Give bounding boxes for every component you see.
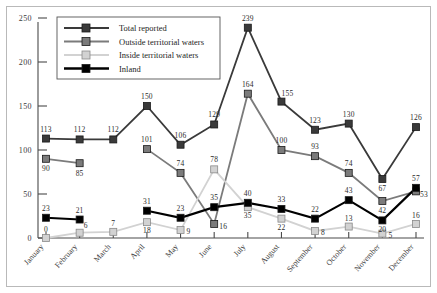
y-tick-label: 200 (19, 58, 32, 67)
data-point-marker (211, 220, 218, 227)
data-point-marker (43, 155, 50, 162)
data-value-label: 35 (244, 211, 252, 220)
data-point-marker (278, 147, 285, 154)
x-tick-label: April (128, 242, 147, 261)
data-point-marker (76, 229, 83, 236)
legend-swatch-marker-1 (82, 38, 90, 46)
series-line-1 (147, 94, 416, 224)
x-tick-label: December (387, 242, 416, 273)
data-value-label: 23 (177, 204, 185, 213)
data-value-label: 130 (343, 110, 355, 119)
data-value-label: 40 (244, 189, 252, 198)
data-value-label: 164 (242, 80, 254, 89)
data-point-marker (312, 215, 319, 222)
data-value-label: 112 (74, 125, 86, 134)
data-value-label: 74 (345, 159, 353, 168)
data-value-label: 9 (187, 227, 191, 236)
data-value-label: 100 (276, 136, 288, 145)
data-value-label: 150 (141, 92, 153, 101)
data-point-marker (413, 124, 420, 131)
data-value-label: 16 (412, 211, 420, 220)
data-value-label: 90 (42, 164, 50, 173)
data-point-marker (345, 120, 352, 127)
data-value-label: 22 (311, 205, 319, 214)
series-line-1 (46, 159, 80, 163)
data-value-label: 7 (111, 219, 115, 228)
data-point-marker (76, 216, 83, 223)
data-value-label: 101 (141, 135, 153, 144)
data-point-marker (76, 136, 83, 143)
y-tick-label: 50 (23, 190, 32, 199)
data-value-label: 57 (412, 174, 420, 183)
data-value-label: 21 (76, 206, 84, 215)
data-value-label: 43 (345, 186, 353, 195)
data-value-label: 13 (345, 214, 353, 223)
data-value-label: 85 (76, 169, 84, 178)
data-point-marker (177, 169, 184, 176)
data-point-marker (76, 160, 83, 167)
data-point-marker (143, 219, 150, 226)
data-point-marker (413, 184, 420, 191)
data-point-marker (43, 135, 50, 142)
data-point-marker (413, 220, 420, 227)
x-tick-label: September (285, 242, 315, 274)
series-line-2 (46, 169, 416, 238)
data-value-label: 23 (42, 204, 50, 213)
data-point-marker (43, 235, 50, 242)
data-point-marker (379, 176, 386, 183)
data-value-label: 239 (242, 14, 254, 23)
legend-label-2: Inside territorial waters (119, 50, 198, 60)
data-point-marker (110, 228, 117, 235)
data-point-marker (143, 146, 150, 153)
y-tick-label: 150 (19, 102, 32, 111)
x-tick-label: October (324, 242, 348, 267)
data-value-label: 113 (40, 125, 52, 134)
data-value-label: 33 (278, 195, 286, 204)
x-tick-label: March (92, 242, 113, 264)
data-point-marker (278, 205, 285, 212)
data-value-label: 53 (420, 190, 428, 199)
y-tick-label: 250 (19, 14, 32, 23)
x-tick-label: January (22, 242, 45, 267)
data-value-label: 67 (378, 184, 386, 193)
data-point-marker (312, 153, 319, 160)
chart-figure: 050100150200250JanuaryFebruaryMarchApril… (0, 0, 437, 293)
x-tick-label: July (232, 242, 248, 258)
data-point-marker (177, 141, 184, 148)
data-value-label: 16 (219, 222, 227, 231)
x-tick-label: May (164, 242, 181, 259)
data-point-marker (143, 103, 150, 110)
data-point-marker (43, 214, 50, 221)
x-tick-label: February (53, 242, 79, 269)
data-value-label: 0 (44, 225, 48, 234)
data-point-marker (278, 215, 285, 222)
data-value-label: 6 (84, 221, 88, 230)
data-value-label: 126 (410, 113, 422, 122)
legend-swatch-marker-2 (82, 51, 90, 59)
data-value-label: 106 (175, 131, 187, 140)
data-point-marker (244, 199, 251, 206)
data-point-marker (244, 90, 251, 97)
x-tick-label: November (353, 242, 383, 273)
x-tick-label: June (197, 242, 214, 259)
data-value-label: 129 (208, 110, 220, 119)
data-point-marker (177, 214, 184, 221)
line-chart-canvas: 050100150200250JanuaryFebruaryMarchApril… (0, 0, 437, 293)
data-point-marker (143, 207, 150, 214)
data-point-marker (211, 204, 218, 211)
data-point-marker (379, 217, 386, 224)
data-point-marker (379, 198, 386, 205)
data-point-marker (312, 126, 319, 133)
data-point-marker (345, 169, 352, 176)
data-point-marker (244, 24, 251, 31)
data-point-marker (211, 166, 218, 173)
legend-label-3: Inland (119, 64, 141, 74)
legend-label-1: Outside territorial waters (119, 37, 204, 47)
data-point-marker (345, 197, 352, 204)
legend-swatch-marker-0 (82, 24, 90, 32)
data-value-label: 22 (278, 223, 286, 232)
data-point-marker (177, 227, 184, 234)
data-value-label: 5 (388, 231, 392, 240)
data-point-marker (312, 227, 319, 234)
data-value-label: 42 (378, 206, 386, 215)
